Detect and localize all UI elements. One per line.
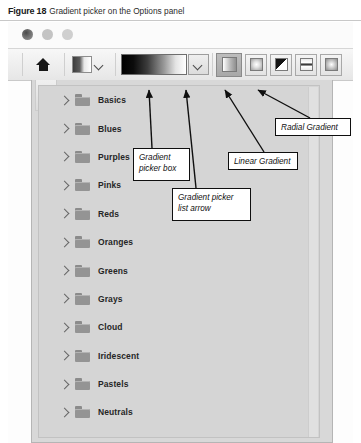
folder-icon [75, 236, 90, 248]
close-dot[interactable] [22, 29, 33, 40]
chevron-right-icon[interactable] [59, 322, 69, 332]
callout-line-2: list arrow [178, 203, 245, 214]
list-item-label: Grays [98, 294, 123, 304]
chevron-right-icon[interactable] [59, 351, 69, 361]
callout-line-1: Radial Gradient [281, 122, 338, 133]
list-item-label: Basics [98, 95, 126, 105]
folder-icon [75, 208, 90, 220]
toolbar-divider [64, 53, 65, 76]
chevron-right-icon[interactable] [59, 294, 69, 304]
reflected-gradient-button[interactable] [295, 54, 317, 76]
gradient-preset-swatch [72, 56, 92, 73]
chevron-right-icon[interactable] [59, 379, 69, 389]
caption-divider [0, 20, 361, 21]
list-item-label: Cloud [98, 322, 123, 332]
linear-gradient-icon [222, 57, 237, 72]
list-item-label: Purples [98, 152, 130, 162]
callout-line-2: picker box [139, 163, 184, 174]
list-item-label: Iridescent [98, 351, 139, 361]
diamond-gradient-icon [325, 58, 338, 71]
list-item[interactable]: Iridescent [39, 342, 311, 370]
folder-icon [75, 265, 90, 277]
figure-number: Figure 18 [8, 6, 46, 16]
gradient-preset-list: BasicsBluesPurplesPinksRedsOrangesGreens… [38, 85, 320, 438]
list-item-label: Neutrals [98, 407, 133, 417]
list-item[interactable]: Greens [39, 256, 311, 284]
chevron-right-icon[interactable] [59, 209, 69, 219]
folder-icon [75, 179, 90, 191]
toolbar-divider [212, 53, 213, 76]
folder-icon [75, 350, 90, 362]
list-item-label: Greens [98, 266, 128, 276]
chevron-right-icon[interactable] [59, 124, 69, 134]
callout-gradient-picker-list-arrow: Gradient picker list arrow [172, 188, 251, 221]
angle-gradient-button[interactable] [270, 54, 292, 76]
reflected-gradient-icon [300, 58, 313, 71]
list-item-label: Pastels [98, 379, 128, 389]
callout-line-1: Linear Gradient [234, 156, 290, 167]
callout-linear-gradient: Linear Gradient [228, 152, 298, 170]
diamond-gradient-button[interactable] [320, 54, 342, 76]
gradient-picker-box[interactable] [121, 54, 187, 75]
angle-gradient-icon [275, 58, 288, 71]
folder-icon [75, 406, 90, 418]
window-titlebar [8, 22, 353, 49]
linear-gradient-button[interactable] [216, 53, 242, 77]
list-item[interactable]: Grays [39, 285, 311, 313]
chevron-down-icon [95, 61, 104, 68]
folder-icon [75, 321, 90, 333]
home-button[interactable] [30, 53, 56, 76]
options-toolbar [8, 49, 353, 81]
folder-list: BasicsBluesPurplesPinksRedsOrangesGreens… [39, 86, 311, 427]
list-item[interactable]: Basics [39, 86, 311, 114]
list-item[interactable]: Pastels [39, 370, 311, 398]
callout-line-1: Gradient [139, 152, 184, 163]
list-item-label: Blues [98, 124, 122, 134]
figure-caption-text: Gradient picker on the Options panel [49, 6, 184, 16]
chevron-right-icon[interactable] [59, 95, 69, 105]
minimize-dot[interactable] [42, 29, 53, 40]
radial-gradient-icon [250, 58, 263, 71]
list-item[interactable]: Oranges [39, 228, 311, 256]
chevron-right-icon[interactable] [59, 266, 69, 276]
folder-icon [75, 94, 90, 106]
list-item[interactable]: Blues [39, 114, 311, 142]
zoom-dot[interactable] [62, 29, 73, 40]
callout-gradient-picker-box: Gradient picker box [133, 148, 190, 181]
chevron-right-icon[interactable] [59, 407, 69, 417]
callout-radial-gradient: Radial Gradient [275, 118, 351, 136]
chevron-right-icon[interactable] [59, 237, 69, 247]
chevron-down-icon [194, 61, 203, 68]
figure-root: Figure 18Gradient picker on the Options … [0, 0, 361, 443]
folder-icon [75, 378, 90, 390]
folder-icon [75, 293, 90, 305]
list-item-label: Pinks [98, 180, 121, 190]
list-item-label: Oranges [98, 237, 133, 247]
application-window: BasicsBluesPurplesPinksRedsOrangesGreens… [8, 22, 353, 443]
callout-line-1: Gradient picker [178, 192, 245, 203]
home-icon [36, 58, 50, 71]
toolbar-divider [22, 53, 23, 76]
chevron-right-icon[interactable] [59, 152, 69, 162]
list-item[interactable]: Cloud [39, 313, 311, 341]
radial-gradient-button[interactable] [245, 54, 267, 76]
list-item[interactable]: Neutrals [39, 398, 311, 426]
gradient-type-group [216, 52, 348, 77]
folder-icon [75, 123, 90, 135]
folder-icon [75, 151, 90, 163]
list-item-label: Reds [98, 209, 119, 219]
toolbar-divider [115, 53, 116, 76]
gradient-picker-list-arrow[interactable] [188, 54, 209, 75]
tool-preset-picker[interactable] [70, 53, 110, 76]
chevron-right-icon[interactable] [59, 180, 69, 190]
figure-caption: Figure 18Gradient picker on the Options … [8, 6, 353, 16]
